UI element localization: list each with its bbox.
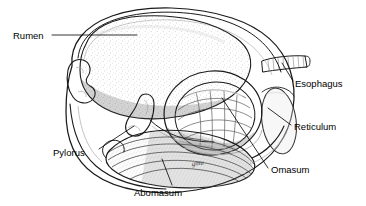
label-text-omasum: Omasum [271, 164, 310, 175]
label-text-esophagus: Esophagus [295, 78, 343, 89]
artist-signature: gmu [191, 159, 204, 168]
label-text-reticulum: Reticulum [294, 121, 336, 132]
ruminant-stomach-figure: gmu Rumen Esophagus Reticulum Omasum [0, 0, 366, 206]
abomasum-structure [100, 124, 265, 194]
label-text-rumen: Rumen [13, 30, 44, 41]
leader-line-esophagus [282, 63, 293, 81]
label-text-pylorus: Pylorus [53, 147, 85, 158]
diagram-canvas: gmu Rumen Esophagus Reticulum Omasum [0, 0, 366, 206]
label-text-abomasum: Abomasum [134, 187, 182, 198]
